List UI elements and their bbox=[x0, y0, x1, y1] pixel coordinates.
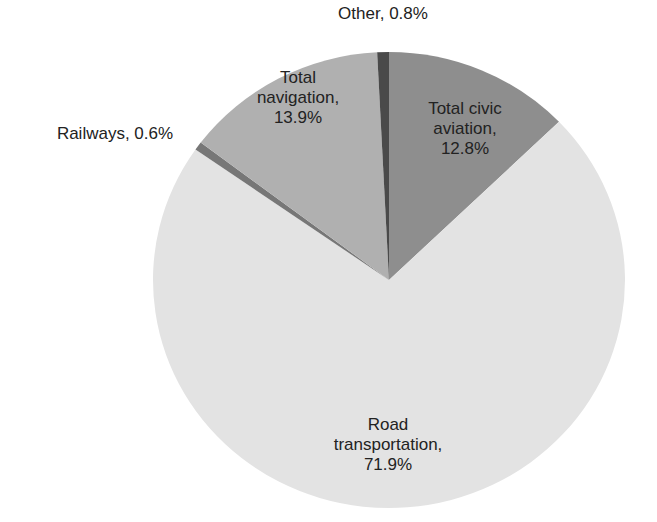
label-navigation-line2: navigation, bbox=[238, 88, 358, 108]
label-aviation-line2: aviation, bbox=[405, 119, 525, 139]
label-other: Other, 0.8% bbox=[318, 4, 448, 24]
label-aviation: Total civic aviation, 12.8% bbox=[405, 99, 525, 159]
label-railways: Railways, 0.6% bbox=[30, 124, 200, 144]
label-aviation-line1: Total civic bbox=[405, 99, 525, 119]
label-other-text: Other, 0.8% bbox=[318, 4, 448, 24]
label-aviation-line3: 12.8% bbox=[405, 139, 525, 159]
label-road: Road transportation, 71.9% bbox=[318, 415, 458, 475]
label-road-line3: 71.9% bbox=[318, 455, 458, 475]
label-navigation: Total navigation, 13.9% bbox=[238, 68, 358, 128]
label-navigation-line1: Total bbox=[238, 68, 358, 88]
label-road-line1: Road bbox=[318, 415, 458, 435]
label-road-line2: transportation, bbox=[318, 435, 458, 455]
label-railways-text: Railways, 0.6% bbox=[30, 124, 200, 144]
label-navigation-line3: 13.9% bbox=[238, 108, 358, 128]
